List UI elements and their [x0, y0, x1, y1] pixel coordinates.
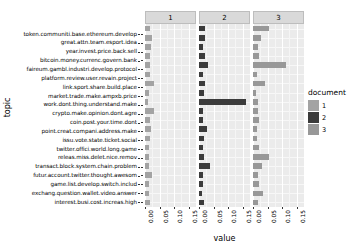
- x-axis-tick-mark: [199, 207, 200, 209]
- x-axis-tick-mark: [228, 207, 229, 209]
- y-axis-tick-label-text: coin.post.your.time.dont: [70, 120, 137, 126]
- y-axis-tick-label-text: token.communiti.base.ethereum.develop: [23, 32, 137, 38]
- y-axis-tick-label: twitter.offici.world.long.game: [12, 145, 143, 154]
- bar-row: [199, 42, 250, 51]
- bar-row: [253, 180, 304, 189]
- bar: [145, 35, 152, 41]
- bar: [253, 117, 259, 123]
- y-axis-tick-label-text: year.invest.price.back.sell: [66, 49, 137, 55]
- x-axis-tick-label: 0.00: [256, 210, 262, 223]
- bar: [253, 81, 265, 87]
- bar-row: [199, 134, 250, 143]
- bar: [253, 62, 286, 68]
- legend-title: document: [308, 88, 354, 97]
- bar: [199, 181, 203, 187]
- x-axis-tick-mark: [189, 207, 190, 209]
- bar: [199, 44, 203, 50]
- y-axis-tick-mark: [138, 96, 140, 97]
- y-axis-tick-label: link.sport.share.build.place: [12, 83, 143, 92]
- bar: [199, 117, 203, 123]
- bar: [145, 81, 154, 87]
- facet-panel-label: 2: [199, 11, 250, 24]
- y-axis-tick-label-text: faireum.gambl.industri.develop.protocol: [26, 67, 137, 73]
- legend-items: 123: [308, 100, 354, 135]
- facet-panel-1: 1: [145, 11, 196, 207]
- legend-label: 3: [322, 126, 326, 134]
- y-axis-tick-mark: [138, 149, 140, 150]
- x-axis-tick-mark: [253, 207, 254, 209]
- bar-row: [199, 97, 250, 106]
- bar-row: [199, 79, 250, 88]
- legend-item[interactable]: 3: [308, 124, 354, 135]
- bar-row: [145, 171, 196, 180]
- bar-row: [199, 143, 250, 152]
- y-axis-tick-label: releas.miss.delet.nice.remov: [12, 154, 143, 163]
- y-axis-tick-label: bitcoin.money.currenc.govern.bank: [12, 57, 143, 66]
- bar: [145, 126, 151, 132]
- y-axis-tick-mark: [138, 193, 140, 194]
- bar-row: [253, 116, 304, 125]
- bar: [199, 136, 204, 142]
- bar-row: [145, 79, 196, 88]
- facet-panel-plot-area: [253, 24, 304, 207]
- bar: [199, 200, 204, 206]
- x-axis-title: value: [145, 234, 304, 243]
- legend-item[interactable]: 1: [308, 100, 354, 111]
- bar: [253, 191, 263, 197]
- y-axis-tick-label: platform.review.user.revain.project: [12, 74, 143, 83]
- x-axis-panel-1: 0.000.050.100.15: [145, 207, 196, 235]
- bar-row: [199, 152, 250, 161]
- bar-row: [253, 125, 304, 134]
- bar-row: [199, 24, 250, 33]
- y-axis-tick-labels: token.communiti.base.ethereum.developgre…: [12, 30, 143, 207]
- legend-color-swatch: [308, 100, 319, 111]
- bar-row: [199, 180, 250, 189]
- y-axis-tick-label: issu.vote.state.ticket.social: [12, 136, 143, 145]
- bar-group: [253, 24, 304, 207]
- y-axis-tick-label: year.invest.price.back.sell: [12, 48, 143, 57]
- bar-row: [253, 33, 304, 42]
- y-axis-tick-label-text: game.list.develop.switch.includ: [50, 182, 137, 188]
- y-axis-tick-mark: [138, 176, 140, 177]
- facet-panels: 123: [145, 11, 304, 207]
- bar-row: [145, 97, 196, 106]
- y-axis-tick-label: game.list.develop.switch.includ: [12, 180, 143, 189]
- y-axis-tick-label-text: transact.block.system.chain.problem: [35, 164, 137, 170]
- y-axis-tick-label: great.attn.team.esport.idea: [12, 39, 143, 48]
- bar-row: [145, 180, 196, 189]
- bar-row: [253, 198, 304, 207]
- legend: document 123: [308, 88, 354, 136]
- bar-row: [145, 125, 196, 134]
- bar: [199, 154, 204, 160]
- bar: [253, 172, 258, 178]
- bar: [253, 145, 259, 151]
- y-axis-tick-label-text: interest.busi.cost.increas.high: [54, 200, 137, 206]
- y-axis-tick-label: coin.post.your.time.dont: [12, 118, 143, 127]
- bar-row: [199, 116, 250, 125]
- y-axis-tick-label: work.dont.thing.understand.make: [12, 101, 143, 110]
- bar-row: [253, 24, 304, 33]
- y-axis-tick-label: crypto.make.opinion.dont.agre: [12, 110, 143, 119]
- bar-row: [253, 106, 304, 115]
- bar: [145, 163, 149, 169]
- y-axis-tick-label-text: great.attn.team.esport.idea: [61, 40, 137, 46]
- bar: [253, 200, 258, 206]
- bar-row: [145, 24, 196, 33]
- legend-item[interactable]: 2: [308, 112, 354, 123]
- y-axis-tick-mark: [138, 105, 140, 106]
- facet-panel-plot-area: [199, 24, 250, 207]
- y-axis-tick-label-text: exchang.question.wallet.video.answer: [32, 191, 137, 197]
- bar-row: [253, 161, 304, 170]
- y-axis-tick-label: market.trade.make.ampxb.price: [12, 92, 143, 101]
- y-axis-tick-mark: [138, 69, 140, 70]
- bar-row: [253, 70, 304, 79]
- y-axis-tick-mark: [138, 202, 140, 203]
- bar: [199, 108, 203, 114]
- bar: [253, 26, 269, 32]
- bar: [145, 99, 148, 105]
- bar: [145, 181, 149, 187]
- bar-row: [145, 70, 196, 79]
- bar: [199, 72, 203, 78]
- x-axis-tick-label: 0.05: [271, 210, 277, 223]
- bar: [253, 99, 258, 105]
